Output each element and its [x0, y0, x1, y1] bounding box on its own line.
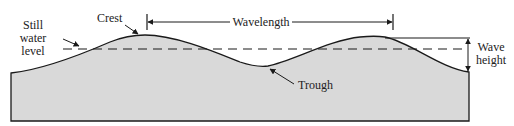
still-water-label-line2: water	[20, 31, 47, 45]
still-water-label-line3: level	[21, 44, 45, 58]
wave-height-label-line1: Wave	[477, 40, 504, 54]
wavelength-label: Wavelength	[232, 15, 289, 29]
still-water-label-line1: Still	[23, 18, 44, 32]
water-body	[11, 35, 469, 121]
crest-arrow-icon	[125, 25, 138, 34]
wave-height-label-line2: height	[476, 53, 507, 67]
trough-label: Trough	[298, 78, 333, 92]
wave-diagram: Still water level Crest Wavelength Troug…	[0, 0, 514, 126]
crest-label: Crest	[97, 11, 123, 25]
still-water-arrow-icon	[63, 39, 79, 46]
